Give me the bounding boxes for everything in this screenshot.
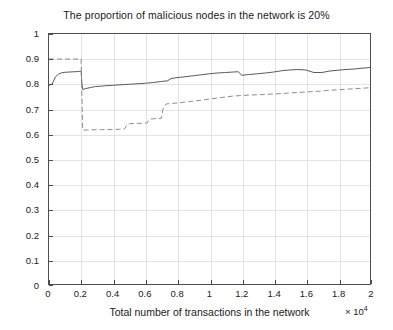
y-axis-tick-label: 0.3 <box>26 204 39 215</box>
exponent-power: 4 <box>364 305 368 312</box>
x-axis-tick <box>307 280 308 284</box>
x-axis-tick <box>81 280 82 284</box>
x-axis-tick <box>275 280 276 284</box>
x-axis-tick-label: 0.8 <box>171 288 184 299</box>
data-series-layer <box>49 34 370 284</box>
series-solid-curve <box>49 68 370 90</box>
x-axis-tick-label: 0 <box>45 288 50 299</box>
x-axis-tick-labels: 00.20.40.60.811.21.41.61.82 <box>48 288 371 304</box>
y-axis-tick-label: 0.7 <box>26 103 39 114</box>
x-axis-label: Total number of transactions in the netw… <box>48 306 371 318</box>
x-axis-tick-label: 0.4 <box>106 288 119 299</box>
x-axis-tick <box>178 280 179 284</box>
y-axis-tick-label: 0.2 <box>26 229 39 240</box>
y-axis-tick <box>49 285 53 286</box>
x-axis-tick-label: 1.4 <box>267 288 280 299</box>
x-axis-tick-label: 0.6 <box>138 288 151 299</box>
y-axis-tick <box>49 59 53 60</box>
y-axis-tick-label: 0.4 <box>26 179 39 190</box>
x-axis-tick <box>211 280 212 284</box>
y-axis-tick-label: 0.5 <box>26 154 39 165</box>
y-axis-tick <box>49 160 53 161</box>
y-axis-tick-labels: 00.10.20.30.40.50.60.70.80.91 <box>0 33 44 285</box>
y-axis-tick-label: 0.1 <box>26 254 39 265</box>
x-axis-tick-label: 0.2 <box>74 288 87 299</box>
figure-chart: The proportion of malicious nodes in the… <box>0 0 393 330</box>
x-axis-tick <box>146 280 147 284</box>
exponent-base: × 10 <box>345 306 364 317</box>
x-axis-tick <box>114 280 115 284</box>
y-axis-tick <box>49 210 53 211</box>
y-axis-tick <box>49 185 53 186</box>
series-dashed-curve <box>49 59 370 130</box>
y-axis-tick-label: 0.6 <box>26 128 39 139</box>
x-axis-tick-label: 1 <box>207 288 212 299</box>
x-axis-tick-label: 1.8 <box>332 288 345 299</box>
y-axis-tick <box>49 84 53 85</box>
y-axis-tick-label: 0 <box>34 280 39 291</box>
chart-title: The proportion of malicious nodes in the… <box>0 9 393 21</box>
x-axis-exponent-label: × 104 <box>345 305 368 317</box>
y-axis-tick <box>49 261 53 262</box>
y-axis-tick <box>49 236 53 237</box>
x-axis-tick <box>243 280 244 284</box>
y-axis-tick <box>49 110 53 111</box>
x-axis-tick-label: 2 <box>368 288 373 299</box>
y-axis-tick-label: 0.8 <box>26 78 39 89</box>
x-axis-tick <box>371 280 372 284</box>
y-axis-tick-label: 0.9 <box>26 53 39 64</box>
plot-area <box>48 33 371 285</box>
x-axis-tick <box>340 280 341 284</box>
x-axis-tick-label: 1.2 <box>235 288 248 299</box>
y-axis-tick-label: 1 <box>34 28 39 39</box>
x-axis-tick <box>49 280 50 284</box>
y-axis-tick <box>49 34 53 35</box>
y-axis-tick <box>49 135 53 136</box>
x-axis-tick-label: 1.6 <box>300 288 313 299</box>
